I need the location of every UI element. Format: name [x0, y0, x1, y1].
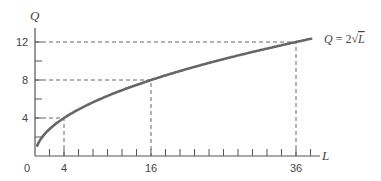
x-label-36: 36	[290, 162, 302, 174]
x-label-4: 4	[61, 162, 67, 174]
x-ticks	[50, 149, 311, 156]
y-label-4: 4	[22, 112, 28, 124]
q-axis-label: Q	[30, 8, 40, 23]
y-label-12: 12	[16, 36, 28, 48]
q-curve	[37, 39, 311, 146]
production-function-chart: Q L 0 4 16 36 4 8 12 Q = 2√L	[0, 0, 381, 181]
origin-label: 0	[24, 162, 30, 174]
dashed-guides	[35, 42, 296, 156]
y-ticks	[35, 42, 42, 137]
x-label-16: 16	[145, 162, 157, 174]
y-label-8: 8	[22, 74, 28, 86]
curve-equation-label: Q = 2√L	[324, 32, 365, 46]
l-axis-label: L	[321, 148, 329, 163]
